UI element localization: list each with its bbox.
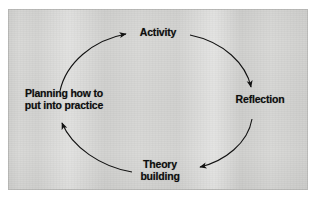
node-label-theory-building: Theory building	[126, 158, 194, 182]
figure-canvas: Activity Reflection Theory building Plan…	[0, 0, 316, 202]
node-label-planning: Planning how to put into practice	[12, 87, 116, 111]
arrow-activity-to-reflection	[190, 35, 251, 87]
arrow-planning-to-activity	[60, 34, 126, 91]
arrow-theory-to-planning	[62, 123, 132, 172]
node-label-reflection: Reflection	[224, 93, 296, 105]
node-label-activity: Activity	[126, 26, 190, 38]
arrow-reflection-to-theory	[200, 119, 252, 167]
